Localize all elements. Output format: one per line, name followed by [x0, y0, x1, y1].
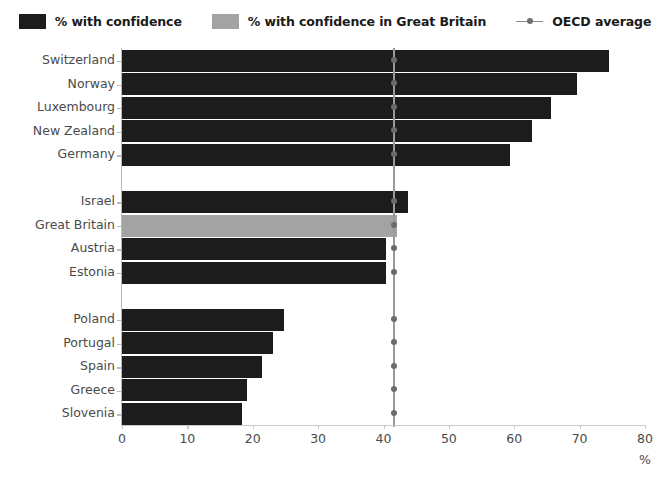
x-axis-tick [514, 425, 515, 429]
legend-item-with-confidence: % with confidence [19, 14, 182, 29]
bar-spain [122, 356, 262, 378]
x-axis-tick-label: 80 [625, 431, 665, 446]
category-label-portugal: Portugal [0, 335, 115, 350]
oecd-average-marker [391, 316, 397, 322]
category-label-norway: Norway [0, 76, 115, 91]
oecd-average-marker [391, 151, 397, 157]
x-axis-tick-label: 0 [102, 431, 142, 446]
category-label-poland: Poland [0, 311, 115, 326]
bar-estonia [122, 262, 386, 284]
bar-greece [122, 379, 247, 401]
category-label-greece: Greece [0, 382, 115, 397]
bar-poland [122, 309, 284, 331]
category-label-new-zealand: New Zealand [0, 123, 115, 138]
line-with-dot-icon [516, 14, 543, 29]
x-axis-tick-label: 10 [167, 431, 207, 446]
category-label-great-britain: Great Britain [0, 217, 115, 232]
category-label-israel: Israel [0, 193, 115, 208]
category-label-germany: Germany [0, 146, 115, 161]
bar-norway [122, 73, 577, 95]
bar-germany [122, 144, 510, 166]
bar-austria [122, 238, 386, 260]
category-label-slovenia: Slovenia [0, 405, 115, 420]
x-axis-tick [187, 425, 188, 429]
bar-new-zealand [122, 120, 532, 142]
bar-slovenia [122, 403, 242, 425]
x-axis-tick-label: 40 [364, 431, 404, 446]
legend-item-oecd-average: OECD average [516, 14, 651, 29]
dark-square-icon [19, 14, 46, 29]
category-label-spain: Spain [0, 358, 115, 373]
legend-item-with-confidence-great-britain: % with confidence in Great Britain [212, 14, 487, 29]
oecd-average-marker [391, 198, 397, 204]
x-axis-tick-label: 60 [494, 431, 534, 446]
gray-square-icon [212, 14, 239, 29]
bar-israel [122, 191, 408, 213]
oecd-average-marker [391, 104, 397, 110]
x-axis-tick [449, 425, 450, 429]
category-label-estonia: Estonia [0, 264, 115, 279]
x-axis-tick [253, 425, 254, 429]
oecd-average-marker [391, 269, 397, 275]
chart-legend: % with confidence % with confidence in G… [0, 0, 670, 42]
oecd-average-marker [391, 410, 397, 416]
category-label-switzerland: Switzerland [0, 52, 115, 67]
x-axis-tick [580, 425, 581, 429]
legend-label-with-confidence: % with confidence [55, 14, 182, 29]
category-label-austria: Austria [0, 240, 115, 255]
oecd-average-marker [391, 57, 397, 63]
category-label-luxembourg: Luxembourg [0, 99, 115, 114]
x-axis-tick-label: 70 [560, 431, 600, 446]
bar-portugal [122, 332, 273, 354]
legend-label-oecd-average: OECD average [552, 14, 651, 29]
x-axis-tick-label: 30 [298, 431, 338, 446]
bar-switzerland [122, 50, 609, 72]
legend-label-with-confidence-great-britain: % with confidence in Great Britain [248, 14, 487, 29]
x-axis-tick [645, 425, 646, 429]
oecd-average-marker [391, 363, 397, 369]
x-axis-tick [384, 425, 385, 429]
oecd-average-marker [391, 222, 397, 228]
x-axis-title: % [625, 452, 665, 467]
x-axis-tick-label: 50 [429, 431, 469, 446]
bar-great-britain [122, 215, 397, 237]
bar-luxembourg [122, 97, 551, 119]
bar-chart-plot-area: SwitzerlandNorwayLuxembourgNew ZealandGe… [0, 42, 670, 483]
x-axis-tick [122, 425, 123, 429]
x-axis-tick-label: 20 [233, 431, 273, 446]
x-axis-tick [318, 425, 319, 429]
